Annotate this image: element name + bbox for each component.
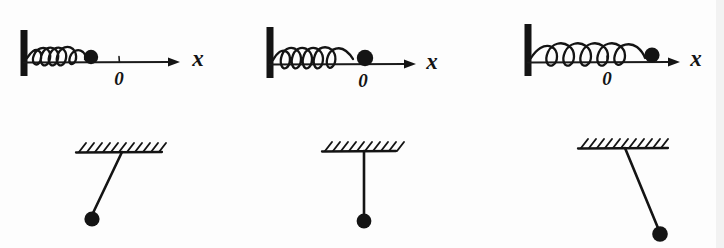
origin-label: 0 (114, 68, 124, 89)
pendulum-rod (93, 152, 122, 213)
spring-panel-2: x 0 (267, 27, 438, 91)
wall-fixture (525, 24, 532, 76)
ceiling-hatching (79, 143, 166, 152)
ceiling-line (578, 148, 668, 149)
mass-bob (644, 47, 659, 62)
x-axis-line (270, 64, 407, 65)
x-axis-arrowhead (404, 60, 416, 69)
scan-edge-artifact (716, 0, 724, 248)
pendulum-panel-1 (76, 143, 166, 227)
spring-panel-3: x 0 (525, 24, 702, 89)
ceiling-hatching (325, 142, 404, 151)
spring-panel-1: x 0 (21, 30, 204, 89)
origin-label: 0 (602, 68, 612, 89)
pendulum-panel-2 (322, 142, 404, 228)
origin-label: 0 (358, 70, 368, 91)
x-axis-line (24, 62, 171, 63)
pendulum-rod (625, 148, 658, 228)
physics-diagram: x 0 x 0 x 0 (0, 0, 724, 248)
wall-fixture (21, 30, 28, 76)
wall-fixture (267, 27, 274, 78)
ceiling-hatching (581, 139, 668, 148)
x-axis-label: x (191, 46, 204, 71)
pendulum-bob (652, 226, 668, 242)
mass-bob (357, 50, 373, 66)
x-axis-label: x (425, 49, 438, 74)
pendulum-bob (84, 211, 99, 226)
pendulum-panel-3 (578, 139, 668, 242)
x-axis-arrowhead (168, 58, 180, 67)
pendulum-bob (357, 214, 372, 229)
mass-bob (84, 50, 98, 64)
figure-canvas: x 0 x 0 x 0 (0, 0, 724, 248)
x-axis-label: x (689, 46, 702, 71)
x-axis-arrowhead (668, 58, 680, 67)
